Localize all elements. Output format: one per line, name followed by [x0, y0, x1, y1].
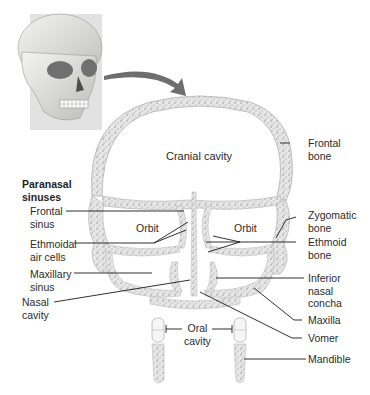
label-maxillary-sinus: Maxillary sinus: [30, 268, 71, 293]
cranial-cavity-label: Cranial cavity: [166, 150, 232, 163]
oral-cavity-line1: Oral: [184, 322, 211, 335]
oral-cavity-line2: cavity: [184, 335, 211, 348]
label-zygomatic-bone: Zygomatic bone: [308, 209, 356, 234]
skull-inset-icon: [18, 14, 102, 130]
orbit-right-label: Orbit: [234, 222, 257, 235]
maxilla-region: [106, 252, 274, 309]
label-mandible: Mandible: [308, 353, 351, 366]
label-vomer: Vomer: [308, 332, 338, 345]
label-frontal-bone: Frontal bone: [308, 137, 341, 162]
label-inferior-nasal-concha: Inferior nasal concha: [308, 272, 342, 310]
label-ethmoid-bone: Ethmoid bone: [308, 236, 347, 261]
label-nasal-cavity: Nasal cavity: [22, 296, 49, 321]
orbit-left-label: Orbit: [136, 222, 159, 235]
label-ethmoidal-air-cells: Ethmoidal air cells: [30, 238, 77, 263]
arrow-icon: [104, 72, 186, 97]
paranasal-sinuses-heading: Paranasal sinuses: [22, 178, 72, 203]
label-frontal-sinus: Frontal sinus: [30, 205, 63, 230]
label-maxilla: Maxilla: [308, 314, 341, 327]
oral-cavity-label: Oral cavity: [184, 322, 211, 347]
nasal-septum: [191, 192, 197, 296]
